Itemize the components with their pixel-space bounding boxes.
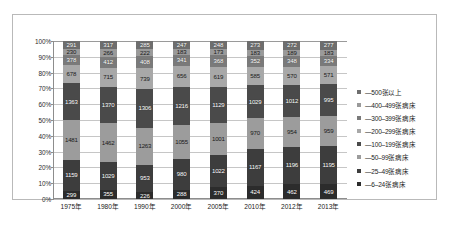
bar-segment-value: 352 [250,58,260,64]
bar-segment-value: 953 [140,175,150,181]
bar-segment-value: 469 [324,189,334,195]
bar-segment-value: 980 [177,171,187,177]
y-tick-label: 40% [39,132,52,139]
bar-segment: 1129 [210,87,227,123]
bar-segment: 1216 [173,87,190,126]
bar-segment: 953 [136,165,153,193]
bar-segment-value: 1129 [212,102,224,108]
bar-segment: 1022 [210,155,227,188]
stacked-bar[interactable]: 248173368619112910011022370 [210,41,227,199]
bar-segment-value: 1363 [65,99,78,105]
bar-segment-value: 1029 [102,173,115,179]
bar-segment-value: 1481 [65,137,78,143]
x-axis-labels: 1975年1980年1990年2000年2005年2010年2012年2013年 [53,201,347,211]
bar-segment-value: 341 [177,57,187,63]
bar-segment-value: 355 [103,191,113,197]
bar-segment: 970 [247,118,264,149]
bar-segment: 348 [283,56,300,67]
bar-segment-value: 1012 [285,98,298,104]
bar-segment: 959 [320,116,337,146]
y-tick-label: 80% [39,69,52,76]
bar-segment-value: 1159 [65,172,77,178]
legend: —500张以上—400–499张病床—300–399张病床—200–299张病床… [357,87,449,192]
bar-segment: 656 [173,66,190,87]
bar-segment-value: 1029 [249,99,262,105]
chart-screenshot: 100%90%80%70%60%50%40%30%20%10%0% 291230… [0,0,449,240]
bar-segment: 1029 [247,85,264,118]
y-axis: 100%90%80%70%60%50%40%30%20%10%0% [13,41,51,199]
bar-segment-value: 299 [67,192,77,198]
bar-segment-value: 285 [140,42,150,48]
y-tick-label: 10% [39,180,52,187]
x-tick-label-1: 1980年 [90,201,127,211]
legend-item-5[interactable]: —50–99张病床 [357,152,449,162]
bar-segment-value: 272 [287,42,297,48]
bar-segment: 1306 [136,89,153,127]
bar-segment-value: 1055 [175,139,188,145]
bar-segment-value: 1195 [322,162,334,168]
bar-segment: 412 [100,57,117,68]
bar-segment-value: 273 [250,42,260,48]
bar-segment: 1167 [247,149,264,186]
stacked-bar[interactable]: 291230378678136314811159299 [63,41,80,199]
bar-segment: 1195 [320,146,337,184]
stacked-bar[interactable]: 24718334165612161055980288 [173,41,190,199]
bar-segment: 995 [320,84,337,115]
x-tick-label-6: 2012年 [274,201,311,211]
bar-segment: 571 [320,66,337,84]
legend-item-0[interactable]: —500张以上 [357,87,449,97]
bar-segment: 355 [100,190,117,199]
bar-segment: 341 [173,55,190,66]
stacked-bar[interactable]: 317266412715137014621029355 [100,41,117,199]
bar-slot: 24718334165612161055980288 [163,41,200,199]
legend-label: —500张以上 [365,87,402,97]
y-tick-label: 90% [39,53,52,60]
stacked-bar[interactable]: 27318335258510299701167424 [247,41,264,199]
bar-segment-value: 1196 [286,162,298,168]
legend-item-2[interactable]: —300–399张病床 [357,113,449,123]
bar-segment-value: 1167 [249,164,261,170]
bar-segment-value: 288 [177,191,187,197]
legend-label: —25–49张病床 [365,166,409,176]
bar-segment-value: 1263 [138,143,151,149]
bar-segment-value: 954 [287,129,297,135]
y-tick-label: 60% [39,101,52,108]
x-tick-label-2: 1990年 [127,201,164,211]
bar-segment: 378 [63,55,80,65]
legend-item-6[interactable]: —25–49张病床 [357,166,449,176]
y-tick-label: 20% [39,164,52,171]
bar-segment: 1370 [100,87,117,124]
legend-swatch-icon [357,182,361,186]
bar-segment: 1029 [100,162,117,189]
bar-segment-value: 226 [140,193,150,199]
bar-segment-value: 368 [214,58,224,64]
bar-segment: 715 [100,68,117,87]
bar-segment: 585 [247,67,264,86]
x-tick-label-4: 2005年 [200,201,237,211]
bar-segment: 954 [283,117,300,147]
bar-segment: 980 [173,159,190,190]
bar-segment: 408 [136,56,153,68]
stacked-bar[interactable]: 27218934857010129541196462 [283,41,300,199]
legend-item-7[interactable]: —6–24张病床 [357,179,449,189]
bar-segment-value: 462 [287,189,297,195]
bar-segment-value: 408 [140,59,150,65]
bar-segment: 570 [283,67,300,85]
legend-item-1[interactable]: —400–499张病床 [357,100,449,110]
bar-segment-value: 277 [324,42,334,48]
bar-segment-value: 619 [214,74,224,80]
bar-segment-value: 370 [214,190,224,196]
legend-item-3[interactable]: —200–299张病床 [357,126,449,136]
stacked-bar[interactable]: 2771833345719959591195469 [320,41,337,199]
y-tick-label: 70% [39,85,52,92]
bar-segment-value: 678 [67,71,77,77]
stacked-bar[interactable]: 28522240873913061263953226 [136,41,153,199]
bar-segment: 1055 [173,125,190,159]
legend-swatch-icon [357,169,361,173]
bar-segment-value: 378 [67,57,77,63]
bar-slot: 291230378678136314811159299 [53,41,90,199]
bar-segment-value: 334 [324,58,334,64]
bar-segment-value: 571 [324,72,334,78]
legend-item-4[interactable]: —100–199张病床 [357,139,449,149]
legend-label: —400–499张病床 [365,100,416,110]
